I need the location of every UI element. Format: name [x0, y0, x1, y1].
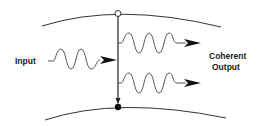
input-label: Input	[15, 56, 36, 66]
top-boundary-curve	[42, 14, 221, 27]
filled-node-icon	[115, 104, 121, 110]
lower-output-arrow-icon	[184, 79, 201, 87]
coherent-output-diagram: Input Coherent Output	[0, 0, 262, 126]
upper-output-arrow-icon	[184, 39, 201, 47]
output-label-line1: Coherent	[209, 51, 246, 61]
bottom-boundary-curve	[45, 107, 226, 120]
open-node-icon	[115, 11, 121, 17]
output-label-line2: Output	[212, 62, 240, 72]
lower-output-wave	[118, 73, 186, 93]
upper-output-wave	[118, 33, 186, 53]
input-wave	[48, 49, 100, 69]
down-arrow-icon	[116, 98, 121, 104]
input-arrow-icon	[100, 56, 117, 64]
